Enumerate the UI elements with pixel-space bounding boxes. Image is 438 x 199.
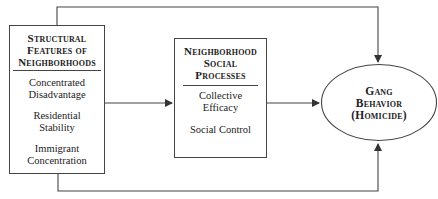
title-line: Neighborhoods <box>10 56 104 68</box>
title-line: Processes <box>175 69 266 81</box>
structural-title: Structural Features of Neighborhoods <box>10 32 104 68</box>
processes-title: Neighborhood Social Processes <box>175 45 266 81</box>
outcome-node: Gang Behavior (Homicide) <box>321 64 437 141</box>
title-line: Gang <box>351 85 407 97</box>
item-line: Efficacy <box>175 102 266 114</box>
item-line: Social Control <box>175 124 266 136</box>
structural-features-box: Structural Features of Neighborhoods Con… <box>9 25 105 174</box>
title-divider <box>13 70 101 71</box>
item-line: Disadvantage <box>10 89 104 101</box>
title-line: Neighborhood <box>175 45 266 57</box>
item-residential-stability: Residential Stability <box>10 110 104 134</box>
item-immigrant-concentration: Immigrant Concentration <box>10 143 104 167</box>
item-collective-efficacy: Collective Efficacy <box>175 90 266 114</box>
item-concentrated-disadvantage: Concentrated Disadvantage <box>10 77 104 101</box>
item-line: Collective <box>175 90 266 102</box>
outcome-title: Gang Behavior (Homicide) <box>351 85 407 121</box>
item-line: Stability <box>10 122 104 134</box>
title-line: (Homicide) <box>351 109 407 121</box>
item-line: Concentrated <box>10 77 104 89</box>
title-line: Behavior <box>351 97 407 109</box>
title-line: Social <box>175 57 266 69</box>
item-line: Immigrant <box>10 143 104 155</box>
item-line: Concentration <box>10 155 104 167</box>
title-divider <box>183 85 258 86</box>
title-line: Features of <box>10 44 104 56</box>
social-processes-box: Neighborhood Social Processes Collective… <box>174 38 267 158</box>
item-line: Residential <box>10 110 104 122</box>
item-social-control: Social Control <box>175 124 266 136</box>
title-line: Structural <box>10 32 104 44</box>
